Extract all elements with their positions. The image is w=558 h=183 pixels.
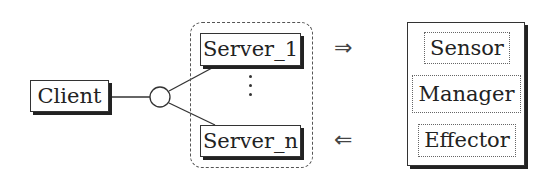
client-label: Client — [38, 86, 102, 107]
effector-box: Effector — [418, 124, 516, 157]
server-n-label: Server_n — [203, 131, 298, 152]
diagram-canvas: Client Server_1 Server_n ⇒ ⇐ Sensor Mana… — [0, 0, 558, 183]
manager-label: Manager — [419, 84, 515, 105]
effector-label: Effector — [424, 130, 510, 151]
interface-circle-icon — [150, 87, 170, 107]
right-double-arrow-icon: ⇒ — [334, 37, 352, 59]
server-n-box: Server_n — [200, 125, 301, 157]
vertical-ellipsis-icon — [249, 75, 253, 102]
sensor-box: Sensor — [424, 32, 510, 64]
server-1-label: Server_1 — [203, 39, 298, 60]
sensor-label: Sensor — [430, 38, 504, 59]
server-1-box: Server_1 — [200, 33, 301, 66]
manager-box: Manager — [412, 75, 521, 113]
client-box: Client — [30, 80, 109, 112]
left-double-arrow-icon: ⇐ — [334, 129, 352, 151]
